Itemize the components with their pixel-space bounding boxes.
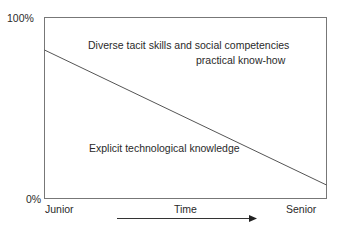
tacit-skills-label-line1: Diverse tacit skills and social competen… — [88, 40, 289, 51]
x-axis-title: Time — [174, 204, 197, 215]
y-axis-max-label: 100% — [7, 13, 34, 24]
x-axis-start-label: Junior — [45, 204, 74, 215]
explicit-knowledge-label: Explicit technological knowledge — [89, 143, 240, 154]
knowledge-boundary-line — [45, 50, 327, 185]
x-axis-end-label: Senior — [286, 204, 316, 215]
time-arrow-head-icon — [249, 215, 257, 222]
y-axis-min-label: 0% — [26, 194, 41, 205]
tacit-skills-label-line2: practical know-how — [196, 55, 285, 66]
diagram-canvas — [0, 0, 342, 230]
